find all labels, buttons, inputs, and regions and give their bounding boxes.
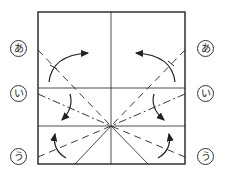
mountain-fold-i-right — [111, 94, 185, 126]
valley-fold-u-right — [111, 126, 185, 157]
mountain-fold-i-left — [38, 94, 111, 126]
label-i-right: い — [197, 85, 214, 102]
label-i-left: い — [10, 85, 27, 102]
fold-arrow-i-right — [153, 94, 164, 120]
label-a-left: あ — [10, 40, 27, 57]
label-u-right: う — [197, 148, 214, 165]
label-u-left: う — [10, 148, 27, 165]
solid-crease-left — [75, 126, 111, 164]
label-a-right: あ — [197, 40, 214, 57]
fold-arrow-i-left — [62, 94, 71, 120]
fold-arrow-a-right — [136, 53, 175, 82]
fold-diagram — [0, 0, 225, 175]
valley-fold-u-left — [38, 126, 111, 157]
solid-crease-right — [111, 126, 148, 164]
